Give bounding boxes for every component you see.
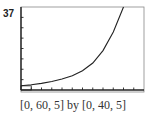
window-caption: [0, 60, 5] by [0, 40, 5] <box>20 98 126 113</box>
axis-ticks <box>21 17 134 90</box>
data-curve <box>21 7 124 86</box>
plot-frame <box>21 7 144 92</box>
